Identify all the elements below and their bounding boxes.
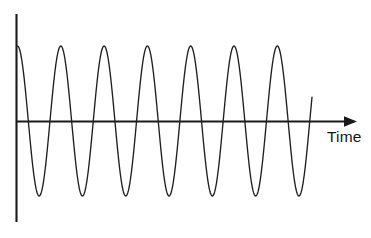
right-arrow-head-icon: [344, 116, 357, 127]
waveform-figure: Time: [0, 0, 371, 238]
waveform-plot: Time: [0, 0, 371, 238]
time-axis-label: Time: [327, 128, 362, 145]
